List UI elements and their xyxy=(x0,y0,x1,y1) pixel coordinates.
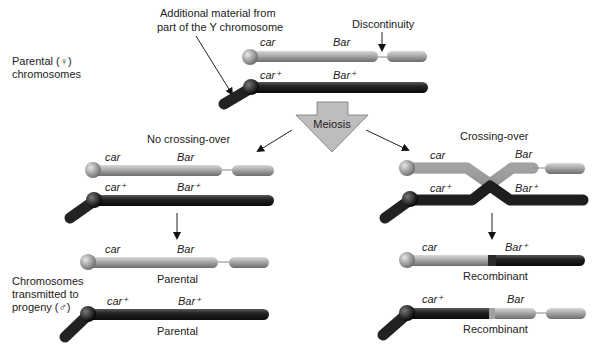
right-branch-arrow xyxy=(366,130,408,150)
gene-label-car-plus: car⁺ xyxy=(260,69,282,81)
outcome-label-parental: Parental xyxy=(157,273,198,285)
left-branch-arrow xyxy=(258,130,292,151)
outcome-label-recombinant: Recombinant xyxy=(463,270,528,282)
gene-label-bar: Bar xyxy=(515,148,533,160)
gene-label-car: car xyxy=(430,149,447,161)
right-chromosome-car-bar-crossing: car Bar xyxy=(399,148,585,184)
gene-label-bar-plus: Bar⁺ xyxy=(178,295,202,307)
gene-label-bar-plus: Bar⁺ xyxy=(177,181,201,193)
right-progeny-chromosome-car-barplus: car Bar⁺ xyxy=(399,241,585,268)
parental-chromosome-carplus-barplus: car⁺ Bar⁺ xyxy=(224,69,428,104)
parental-female-label: Parental (♀) xyxy=(12,55,72,67)
gene-label-car-plus: car⁺ xyxy=(430,182,452,194)
outcome-label-recombinant: Recombinant xyxy=(463,323,528,335)
parental-chromosome-car-bar: car Bar xyxy=(242,36,427,65)
gene-label-bar-plus: Bar⁺ xyxy=(505,241,529,253)
gene-label-car-plus: car⁺ xyxy=(422,293,444,305)
transmitted-label: Chromosomes xyxy=(12,275,84,287)
crossing-over-label: Crossing-over xyxy=(460,130,529,142)
gene-label-bar: Bar xyxy=(333,36,351,48)
gene-label-car: car xyxy=(105,243,122,255)
gene-label-car: car xyxy=(422,241,439,253)
left-progeny-chromosome-car-bar: car Bar xyxy=(80,243,269,270)
no-crossing-over-label: No crossing-over xyxy=(147,133,230,145)
gene-label-bar: Bar xyxy=(507,293,525,305)
discontinuity-label: Discontinuity xyxy=(352,18,415,30)
meiosis-diagram: Additional material from part of the Y c… xyxy=(0,0,602,355)
transmitted-label-3: progeny (♂) xyxy=(12,301,70,313)
right-chromosome-carplus-barplus-crossing: car⁺ Bar⁺ xyxy=(385,182,583,218)
outcome-label-parental: Parental xyxy=(157,325,198,337)
gene-label-car: car xyxy=(105,151,122,163)
transmitted-label-2: transmitted to xyxy=(12,288,79,300)
left-chromosome-car-bar: car Bar xyxy=(85,151,274,178)
parental-female-label-2: chromosomes xyxy=(12,68,82,80)
gene-label-car-plus: car⁺ xyxy=(107,295,129,307)
gene-label-car-plus: car⁺ xyxy=(105,181,127,193)
pointer-arrow xyxy=(196,36,232,94)
gene-label-bar-plus: Bar⁺ xyxy=(333,69,357,81)
gene-label-bar: Bar xyxy=(177,243,195,255)
additional-material-label: Additional material from xyxy=(160,7,276,19)
left-chromosome-carplus-barplus: car⁺ Bar⁺ xyxy=(70,181,274,218)
gene-label-bar: Bar xyxy=(177,151,195,163)
additional-material-label-2: part of the Y chromosome xyxy=(157,21,283,33)
meiosis-arrow: Meiosis xyxy=(296,102,368,152)
gene-label-bar-plus: Bar⁺ xyxy=(515,182,539,194)
meiosis-label: Meiosis xyxy=(313,118,351,130)
gene-label-car: car xyxy=(260,36,277,48)
